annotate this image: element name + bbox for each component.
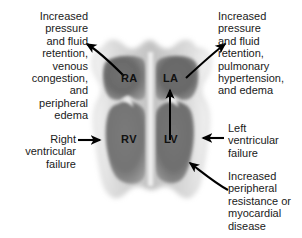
septum	[146, 52, 155, 186]
chamber-label-la: LA	[163, 72, 178, 84]
chamber-label-rv: RV	[121, 133, 137, 145]
chamber-label-ra: RA	[121, 72, 138, 84]
annotation-right-sided-congestion: Increased pressure and fluid retention, …	[2, 10, 88, 122]
annotation-right-ventricular-failure: Right ventricular failure	[6, 133, 76, 170]
annotation-left-sided-congestion: Increased pressure and fluid retention, …	[218, 10, 302, 97]
chamber-label-lv: LV	[164, 133, 178, 145]
annotation-left-ventricular-failure: Left ventricular failure	[228, 122, 300, 159]
annotation-increased-peripheral-resistance: Increased peripheral resistance or myoca…	[228, 170, 302, 232]
heart-failure-diagram: RA LA RV LV Increased pressure and fluid…	[0, 0, 302, 238]
